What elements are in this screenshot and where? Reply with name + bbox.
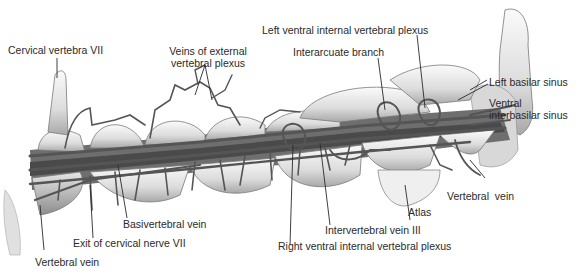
label-vertebral-vein-left: Vertebral vein bbox=[35, 256, 99, 268]
label-interarcuate-branch: Interarcuate branch bbox=[293, 46, 384, 58]
label-line-1: Ventral bbox=[489, 97, 568, 109]
label-line-1: Veins of external bbox=[160, 45, 256, 57]
label-basivertebral-vein: Basivertebral vein bbox=[123, 218, 206, 230]
label-line-2: interbasilar sinus bbox=[489, 109, 568, 121]
label-intervertebral-vein-iii: Intervertebral vein III bbox=[325, 224, 421, 236]
label-vertebral-vein-right: Vertebral vein bbox=[447, 190, 514, 202]
label-exit-cervical-nerve-vii: Exit of cervical nerve VII bbox=[73, 237, 186, 249]
label-right-ventral-internal-vertebral-plexus: Right ventral internal vertebral plexus bbox=[278, 240, 451, 252]
label-veins-external-vertebral-plexus: Veins of external vertebral plexus bbox=[160, 45, 256, 69]
label-ventral-interbasilar-sinus: Ventral interbasilar sinus bbox=[489, 97, 568, 121]
label-atlas: Atlas bbox=[408, 206, 431, 218]
label-cervical-vertebra-vii: Cervical vertebra VII bbox=[8, 44, 103, 56]
label-left-ventral-internal-vertebral-plexus: Left ventral internal vertebral plexus bbox=[262, 24, 428, 36]
label-left-basilar-sinus: Left basilar sinus bbox=[489, 76, 568, 88]
anatomical-figure: Cervical vertebra VII Veins of external … bbox=[0, 0, 580, 274]
label-line-2: vertebral plexus bbox=[160, 57, 256, 69]
vertebral-column-illustration bbox=[0, 0, 580, 274]
